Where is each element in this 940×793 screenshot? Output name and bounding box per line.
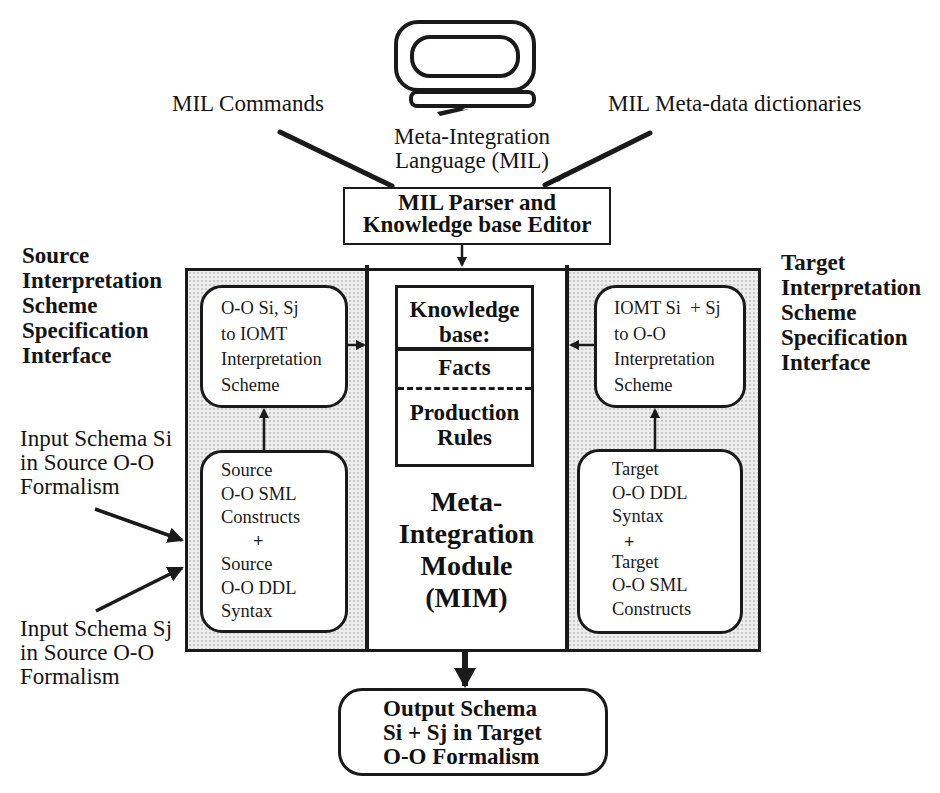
knowledge-base-title: Knowledge base: xyxy=(398,297,531,347)
source-interface-label: Source Interpretation Scheme Specificati… xyxy=(22,243,162,368)
kb-production-rules: Production Rules xyxy=(398,400,531,450)
source-constructs-box: Source O-O SML Constructs + Source O-O D… xyxy=(200,450,348,633)
mil-parser-line1: MIL Parser and xyxy=(345,192,609,214)
kb-dashed-divider xyxy=(398,387,531,390)
mil-commands-label: MIL Commands xyxy=(172,91,324,117)
mil-language-label: Meta-Integration Language (MIL) xyxy=(372,125,572,173)
knowledge-base-box: Knowledge base: Facts Production Rules xyxy=(395,285,534,467)
output-schema-box: Output Schema Si + Sj in Target O-O Form… xyxy=(338,688,608,776)
kb-solid-divider xyxy=(398,347,531,351)
source-scheme-box: O-O Si, Sj to IOMT Interpretation Scheme xyxy=(200,285,348,408)
input-sj-label: Input Schema Sj in Source O-O Formalism xyxy=(20,617,172,689)
kb-facts: Facts xyxy=(398,355,531,380)
mil-metadata-label: MIL Meta-data dictionaries xyxy=(608,91,861,117)
target-interface-label: Target Interpretation Scheme Specificati… xyxy=(781,250,921,375)
mil-parser-line2: Knowledge base Editor xyxy=(345,214,609,236)
mil-parser-box: MIL Parser and Knowledge base Editor xyxy=(343,187,611,245)
target-scheme-box: IOMT Si + Sj to O-O Interpretation Schem… xyxy=(594,285,746,408)
input-si-label: Input Schema Si in Source O-O Formalism xyxy=(20,427,172,499)
mim-label: Meta- Integration Module (MIM) xyxy=(366,486,567,614)
computer-terminal-icon xyxy=(396,22,534,116)
target-constructs-box: Target O-O DDL Syntax + Target O-O SML C… xyxy=(577,449,743,634)
